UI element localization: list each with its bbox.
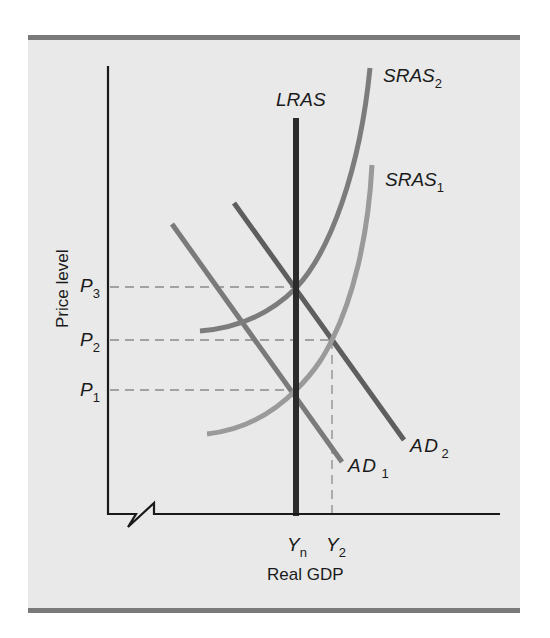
lras-label: LRAS bbox=[276, 89, 326, 110]
bottom-band bbox=[28, 608, 520, 613]
y-axis-title: Price level bbox=[53, 250, 72, 328]
ad-as-diagram: LRAS SRAS2 SRAS1 AD2 AD1 P3 P2 P1 Yn Y2 … bbox=[0, 0, 550, 638]
panel-background bbox=[28, 38, 520, 611]
x-axis-title: Real GDP bbox=[267, 565, 344, 584]
top-band bbox=[28, 35, 520, 40]
